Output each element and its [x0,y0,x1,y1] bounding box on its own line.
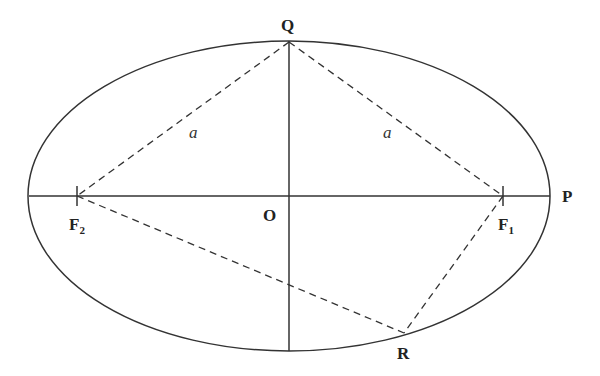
label-a-left: a [189,123,198,142]
label-a-right: a [383,123,392,142]
label-r: R [397,344,410,363]
label-f2: F2 [69,215,85,236]
dashed-q-f1 [289,42,503,196]
label-q: Q [281,16,294,35]
dashed-f1-r [404,196,503,333]
label-f1: F1 [498,215,514,236]
label-p: P [562,187,572,206]
ellipse-diagram: Q O P R F2 F1 a a [0,0,600,376]
label-o: O [263,206,276,225]
dashed-f2-r [77,196,404,333]
dashed-q-f2 [77,42,289,196]
